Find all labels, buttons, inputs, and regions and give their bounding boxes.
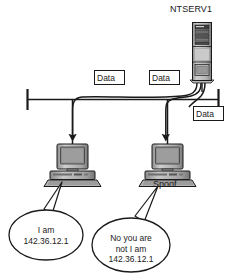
network-diagram-canvas: NTSERV1 Data Data Data Spoof I am 142.36… — [0, 0, 239, 280]
victim-bubble-line-1: I am — [14, 225, 78, 236]
server-tower-icon — [190, 23, 214, 93]
victim-speech-bubble — [9, 182, 83, 260]
victim-bubble-line-2: 142.36.12.1 — [14, 236, 78, 247]
attacker-bubble-line-1: No you are — [97, 233, 165, 244]
victim-computer-icon — [44, 144, 101, 187]
packet-label-3: Data — [196, 110, 214, 119]
packet-label-2: Data — [152, 74, 170, 83]
attacker-host-label: Spoof — [153, 180, 177, 189]
attacker-bubble-line-2: not I am — [97, 244, 165, 255]
packet-flow-paths — [73, 83, 205, 137]
packet-label-1: Data — [97, 74, 115, 83]
network-bus-icon — [27, 89, 219, 110]
victim-bubble-text: I am 142.36.12.1 — [14, 225, 78, 246]
server-label: NTSERV1 — [170, 5, 212, 14]
attacker-bubble-line-3: 142.36.12.1 — [97, 254, 165, 265]
host-drop-lines — [73, 100, 168, 147]
attacker-bubble-text: No you are not I am 142.36.12.1 — [97, 233, 165, 265]
